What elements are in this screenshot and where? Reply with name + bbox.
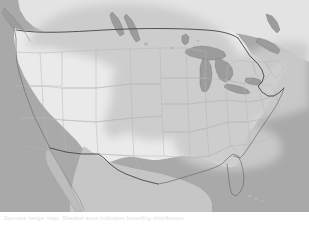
map-canvas	[0, 0, 309, 212]
figure-caption: Species range map. Shaded area indicates…	[4, 214, 304, 228]
range-map-figure: Species range map. Shaded area indicates…	[0, 0, 309, 230]
map-svg	[0, 0, 309, 212]
